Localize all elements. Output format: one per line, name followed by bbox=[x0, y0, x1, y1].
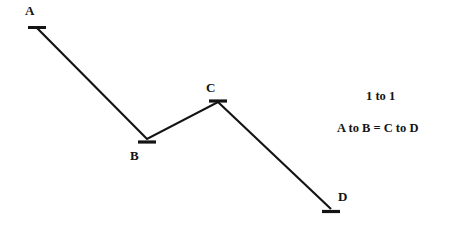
zigzag-polyline bbox=[37, 28, 331, 209]
point-label-a: A bbox=[25, 4, 34, 17]
point-label-b: B bbox=[130, 149, 139, 162]
abcd-pattern-diagram: A B C D 1 to 1 A to B = C to D bbox=[0, 0, 456, 229]
point-label-c: C bbox=[206, 81, 215, 94]
annotation-ratio: 1 to 1 bbox=[366, 89, 395, 103]
annotation-equality: A to B = C to D bbox=[337, 121, 418, 135]
point-label-d: D bbox=[338, 190, 347, 203]
zigzag-line-chart bbox=[0, 0, 456, 229]
